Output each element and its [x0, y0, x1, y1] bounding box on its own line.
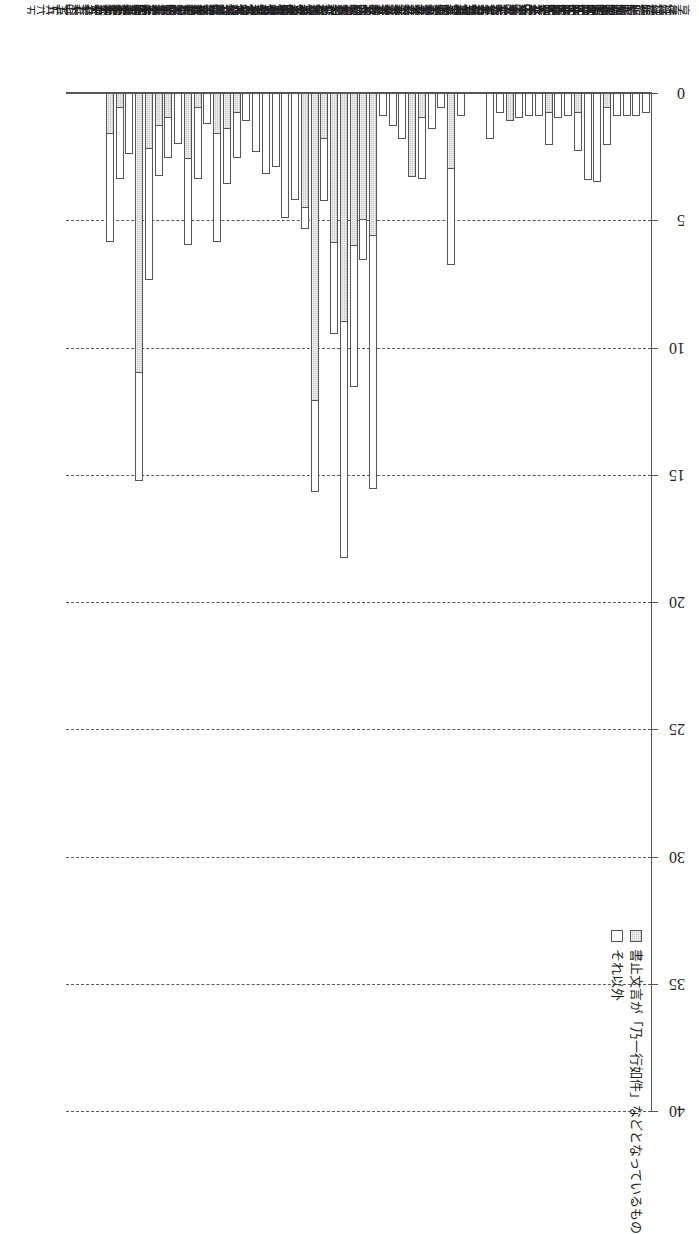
bar-rows [66, 93, 651, 1110]
bar-segment-series-b [359, 219, 367, 260]
category-label: 天正一〇(一五八二) [27, 2, 115, 15]
bar-segment-series-a [350, 93, 358, 246]
category-axis-labels: 享徳二(一四五三)享徳三(一四五四)延徳二(一四九〇)延徳三(一四九一)明応五(… [66, 0, 651, 92]
bar-segment-series-a [408, 93, 416, 177]
bar-row [564, 93, 572, 116]
bar-segment-series-a [603, 93, 611, 108]
bar-row [164, 93, 172, 158]
bar-row [116, 93, 124, 179]
bar-segment-series-a [155, 93, 163, 126]
bar-row [515, 93, 523, 118]
tick-mark-15 [651, 475, 658, 476]
bar-row [184, 93, 192, 245]
bar-segment-series-b [584, 93, 592, 180]
bar-row [506, 93, 514, 121]
bar-row [447, 93, 455, 265]
bar-row [330, 93, 338, 334]
bar-segment-series-b [242, 93, 250, 121]
bar-segment-series-b [496, 93, 504, 113]
bar-segment-series-a [184, 93, 192, 159]
bar-row [408, 93, 416, 177]
bar-row [457, 93, 465, 116]
tick-mark-20 [651, 602, 658, 603]
bar-row [291, 93, 299, 200]
plot-area: 0510152025303540 [66, 92, 651, 1110]
bar-row [613, 93, 621, 116]
bar-row [252, 93, 260, 152]
bar-row [174, 93, 182, 144]
bar-segment-series-b [623, 93, 631, 116]
bar-segment-series-b [457, 93, 465, 116]
bar-segment-series-a [418, 93, 426, 118]
bar-row [135, 93, 143, 481]
bar-row [623, 93, 631, 116]
tick-mark-35 [651, 984, 658, 985]
bar-row [389, 93, 397, 126]
bar-segment-series-b [340, 321, 348, 558]
axis-tick-label: 25 [669, 721, 685, 737]
bar-segment-series-b [418, 117, 426, 178]
bar-segment-series-a [233, 93, 241, 113]
bar-row [603, 93, 611, 145]
bar-row [554, 93, 562, 118]
bar-row [418, 93, 426, 179]
tick-mark-30 [651, 857, 658, 858]
tick-mark-25 [651, 729, 658, 730]
bar-segment-series-b [174, 93, 182, 144]
bar-row [272, 93, 280, 167]
axis-tick-label: 35 [669, 976, 685, 992]
bar-row [486, 93, 494, 139]
bar-row [203, 93, 211, 124]
bar-row [369, 93, 377, 489]
bar-segment-series-a [545, 93, 553, 113]
axis-tick-label: 0 [677, 85, 685, 101]
bar-segment-series-b [535, 93, 543, 116]
bar-segment-series-b [194, 107, 202, 178]
bar-segment-series-a [320, 93, 328, 139]
axis-tick-label: 5 [677, 212, 685, 228]
tick-mark-40 [651, 1111, 658, 1112]
bar-segment-series-b [311, 400, 319, 492]
bar-row [428, 93, 436, 129]
bar-row [311, 93, 319, 492]
bar-segment-series-b [262, 93, 270, 174]
bar-segment-series-b [330, 242, 338, 334]
bar-row [281, 93, 289, 218]
bar-row [535, 93, 543, 116]
bar-row [642, 93, 650, 113]
axis-tick-label: 40 [669, 1103, 685, 1119]
bar-segment-series-a [574, 93, 582, 113]
bar-row [379, 93, 387, 116]
bar-segment-series-b [369, 235, 377, 490]
bar-segment-series-b [447, 168, 455, 265]
bar-row [155, 93, 163, 176]
bar-row [233, 93, 241, 158]
legend-swatch-hatched-icon [630, 930, 642, 942]
bar-segment-series-b [515, 93, 523, 118]
bar-segment-series-b [164, 117, 172, 158]
bar-segment-series-b [398, 93, 406, 139]
bar-segment-series-b [272, 93, 280, 167]
axis-tick-label: 15 [669, 467, 685, 483]
bar-segment-series-b [486, 93, 494, 139]
bar-row [320, 93, 328, 201]
bar-segment-series-b [554, 93, 562, 118]
bar-segment-series-a [135, 93, 143, 373]
bar-segment-series-b [379, 93, 387, 116]
bar-row [632, 93, 640, 116]
bar-row [593, 93, 601, 182]
bar-segment-series-b [603, 107, 611, 145]
bar-row [525, 93, 533, 116]
bar-segment-series-b [145, 148, 153, 280]
bar-segment-series-b [428, 93, 436, 129]
tick-mark-10 [651, 348, 658, 349]
bar-segment-series-a [311, 93, 319, 401]
bar-segment-series-a [359, 93, 367, 220]
bar-segment-series-b [574, 112, 582, 150]
bar-row [125, 93, 133, 154]
bar-segment-series-b [632, 93, 640, 116]
bar-segment-series-b [116, 107, 124, 178]
gridline-40 [66, 1111, 651, 1112]
bar-segment-series-b [125, 93, 133, 154]
